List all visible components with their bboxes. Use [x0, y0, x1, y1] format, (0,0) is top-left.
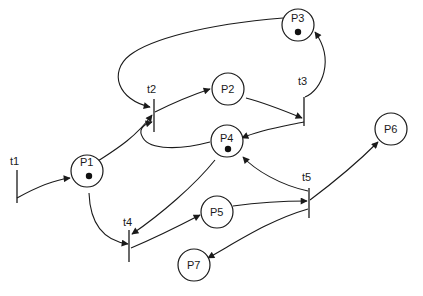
transition-t2[interactable]: t2	[147, 83, 156, 132]
arc-p2-t3	[246, 98, 302, 118]
place-label: P5	[210, 206, 223, 218]
transition-label: t3	[298, 75, 307, 87]
transition-label: t5	[302, 171, 311, 183]
arc-t2-p2	[155, 89, 210, 112]
arc-t4-p5	[131, 215, 200, 248]
place-p1[interactable]: P1	[71, 155, 103, 187]
place-label: P2	[221, 83, 234, 95]
place-label: P1	[80, 156, 93, 168]
transition-t1[interactable]: t1	[10, 155, 19, 203]
place-p7[interactable]: P7	[178, 249, 210, 281]
arc-p3-t2	[118, 18, 283, 107]
transitions: t1 t2 t3 t4 t5	[10, 75, 311, 262]
arc-p4-t4	[132, 160, 215, 234]
place-p2[interactable]: P2	[212, 73, 244, 105]
place-p6[interactable]: P6	[375, 113, 407, 145]
place-label: P6	[384, 123, 397, 135]
place-p4[interactable]: P4	[211, 125, 243, 157]
arc-t3-p4	[242, 122, 304, 138]
place-label: P4	[220, 132, 233, 144]
place-label: P3	[291, 12, 304, 24]
token	[86, 173, 92, 179]
transition-label: t4	[123, 216, 132, 228]
place-label: P7	[187, 259, 200, 271]
arc-t1-p1	[17, 178, 70, 198]
transition-label: t2	[147, 83, 156, 95]
place-p5[interactable]: P5	[201, 196, 233, 228]
arc-p1-t2	[98, 115, 152, 161]
arc-t5-p4	[243, 157, 308, 191]
arc-p4-t2	[141, 122, 210, 148]
arcs	[17, 18, 378, 258]
transition-label: t1	[10, 155, 19, 167]
arc-t3-p3	[305, 32, 325, 97]
token	[225, 146, 231, 152]
token	[295, 29, 301, 35]
transition-t3[interactable]: t3	[298, 75, 307, 126]
transition-t4[interactable]: t4	[123, 216, 132, 262]
arc-t5-p6	[310, 142, 378, 200]
arc-p5-t5	[233, 201, 307, 206]
place-p3[interactable]: P3	[282, 9, 314, 41]
petri-net-diagram: t1 t2 t3 t4 t5 P1 P2 P	[0, 0, 423, 296]
